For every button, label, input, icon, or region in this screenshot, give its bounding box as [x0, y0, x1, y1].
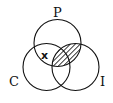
venn-diagram: P C I x	[0, 0, 113, 103]
marker-x: x	[41, 49, 48, 62]
label-p: P	[53, 5, 62, 20]
label-c: C	[9, 74, 19, 89]
label-i: I	[100, 74, 105, 89]
